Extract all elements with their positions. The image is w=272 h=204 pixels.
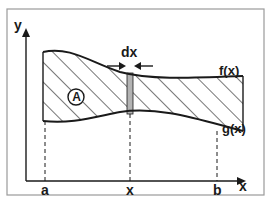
upper-curve-label: f(x) xyxy=(219,63,239,78)
x-tick-b: b xyxy=(213,182,222,198)
area-between-curves-diagram xyxy=(0,0,272,204)
dx-label: dx xyxy=(121,44,137,60)
x-tick-a: a xyxy=(41,182,49,198)
x-axis-label: x xyxy=(239,178,247,194)
region-label: A xyxy=(71,90,82,104)
y-axis-label: y xyxy=(14,17,22,33)
x-tick-x: x xyxy=(126,182,134,198)
lower-curve-label: g(x) xyxy=(222,121,246,136)
dx-strip xyxy=(127,73,133,114)
